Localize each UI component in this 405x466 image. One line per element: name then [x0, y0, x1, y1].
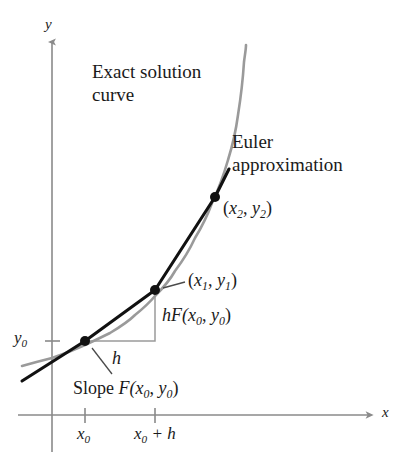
point1-comma: , — [208, 270, 217, 290]
diagram-canvas — [0, 0, 405, 466]
point2-x: x — [229, 198, 237, 218]
point-x0-y0 — [80, 336, 90, 346]
label-point-x1-y1: (x1, y1) — [188, 270, 237, 291]
point1-close: ) — [231, 270, 237, 290]
x-tick-label-x1-base: x — [134, 424, 142, 443]
x-axis-label: x — [382, 404, 389, 422]
exact-curve-line-2: curve — [92, 83, 201, 106]
rise-y: y — [211, 305, 219, 325]
label-rise-hF: hF(x0, y0) — [162, 305, 231, 326]
point2-comma: , — [243, 198, 252, 218]
rise-prefix: hF( — [162, 305, 188, 325]
point-x1-y1 — [150, 285, 160, 295]
point1-x: x — [194, 270, 202, 290]
label-point-x2-y2: (x2, y2) — [223, 198, 272, 219]
leader-line-slope — [92, 348, 112, 374]
euler-line-2: approximation — [232, 153, 343, 176]
point1-y: y — [217, 270, 225, 290]
annotation-exact-solution-curve: Exact solution curve — [92, 60, 201, 106]
label-slope-F: Slope F(x0, y0) — [73, 378, 178, 399]
y-tick-label-base: y — [14, 328, 22, 347]
euler-method-figure: y x y0 x0 x0 + h Exact solution curve Eu… — [0, 0, 405, 466]
x-tick-label-x1-suffix: + h — [147, 424, 175, 443]
rise-close: ) — [225, 305, 231, 325]
euler-line-1: Euler — [232, 130, 343, 153]
x-tick-label-x0-base: x — [77, 424, 85, 443]
x-tick-label-x0-sub: 0 — [85, 433, 91, 445]
x-tick-label-x0: x0 — [77, 424, 90, 444]
y-axis-label: y — [45, 16, 52, 34]
slope-close: ) — [172, 378, 178, 398]
slope-fn: F( — [119, 378, 136, 398]
slope-word: Slope — [73, 378, 119, 398]
x-tick-label-x0-plus-h: x0 + h — [134, 424, 176, 444]
y-tick-label-y0: y0 — [14, 328, 27, 348]
slope-x: x — [136, 378, 144, 398]
point2-y: y — [252, 198, 260, 218]
rise-comma: , — [202, 305, 211, 325]
point2-close: ) — [266, 198, 272, 218]
annotation-euler-approximation: Euler approximation — [232, 130, 343, 176]
exact-curve-line-1: Exact solution — [92, 60, 201, 83]
label-step-h: h — [112, 348, 121, 369]
rise-x: x — [188, 305, 196, 325]
y-tick-label-sub: 0 — [22, 337, 28, 349]
point-x2-y2 — [210, 192, 220, 202]
